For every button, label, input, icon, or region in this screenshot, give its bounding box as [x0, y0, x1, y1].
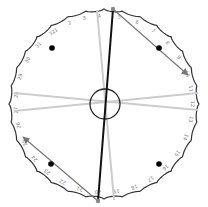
dial-rim — [9, 9, 199, 199]
marker-dot — [48, 161, 54, 167]
dial-number: 13 — [188, 116, 195, 123]
endpoint-dot — [96, 199, 100, 203]
circular-dial-diagram: 1234567891011121314151617181920212223242… — [0, 0, 208, 207]
marker-dot — [156, 45, 162, 51]
scalloped-rim — [9, 9, 199, 199]
endpoint-dot — [111, 7, 115, 11]
dial-number: 12 — [190, 101, 196, 107]
marker-dot — [49, 45, 55, 51]
dial-number: 11 — [188, 85, 195, 92]
marker-dot — [156, 161, 162, 167]
